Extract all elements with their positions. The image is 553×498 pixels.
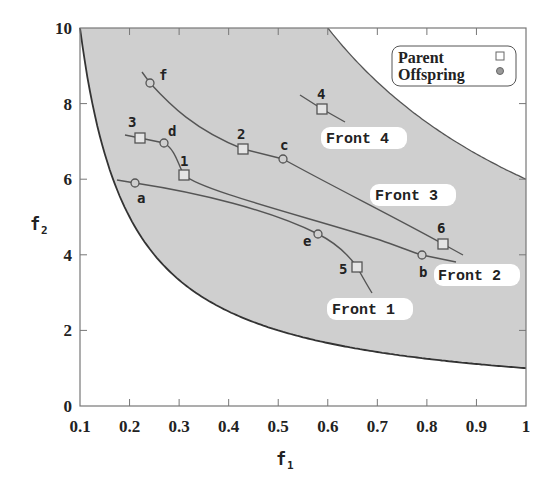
legend-square-icon [496,52,504,60]
x-tick-label: 0.8 [416,417,437,436]
x-tick-label: 0.6 [317,417,338,436]
y-tick-label: 4 [64,246,73,265]
svg-text:Front 1: Front 1 [332,302,395,319]
parent-marker-5 [352,262,362,272]
point-label-1: 1 [180,153,188,169]
y-axis-label: f 2 [30,214,48,237]
x-tick-label: 0.9 [466,417,487,436]
front-2-label: Front 2 [434,264,520,286]
x-tick-labels: 0.10.20.30.40.50.60.70.80.91 [69,417,530,436]
front-1-label: Front 1 [327,298,413,320]
y-tick-label: 2 [64,321,73,340]
svg-text:2: 2 [41,224,48,237]
offspring-marker-a [131,179,139,187]
y-tick-label: 8 [64,95,73,114]
parent-marker-4 [317,104,327,114]
legend-circle-icon [497,68,504,75]
point-label-6: 6 [437,220,445,236]
x-tick-label: 0.4 [218,417,240,436]
pareto-front-chart: 1 2 3 4 5 6 a b c d e f Front 1 Front 2 … [0,0,553,498]
x-tick-label: 0.2 [119,417,140,436]
point-label-c: c [280,137,288,153]
offspring-marker-c [279,155,287,163]
offspring-marker-e [314,230,322,238]
point-label-d: d [168,123,176,139]
parent-marker-3 [135,133,145,143]
legend-parent-label: Parent [398,49,445,66]
point-label-5: 5 [339,261,347,277]
y-tick-label: 0 [64,397,73,416]
svg-text:Front 4: Front 4 [326,131,389,148]
x-tick-label: 0.5 [268,417,289,436]
x-tick-label: 0.1 [69,417,90,436]
point-label-2: 2 [237,126,245,142]
svg-text:Front 2: Front 2 [438,268,501,285]
svg-text:1: 1 [287,459,294,472]
offspring-marker-f [146,79,154,87]
point-label-b: b [419,264,427,280]
front-4-label: Front 4 [321,127,407,149]
point-label-e: e [303,233,311,249]
y-tick-labels: 0246810 [55,19,73,416]
parent-marker-6 [438,239,448,249]
parent-marker-2 [238,144,248,154]
svg-text:f: f [30,214,40,234]
x-tick-label: 0.3 [168,417,189,436]
point-label-4: 4 [317,86,325,102]
x-tick-label: 1 [522,417,531,436]
point-label-f: f [159,67,167,83]
x-axis-label: f 1 [276,449,294,472]
legend: Parent Offspring [392,46,516,86]
svg-text:f: f [276,449,286,469]
offspring-marker-b [418,251,426,259]
legend-offspring-label: Offspring [398,66,465,84]
y-tick-label: 10 [55,19,72,38]
x-tick-label: 0.7 [367,417,389,436]
offspring-marker-d [160,139,168,147]
svg-text:Front 3: Front 3 [375,188,438,205]
point-label-3: 3 [128,114,136,130]
front-3-label: Front 3 [370,184,456,206]
point-label-a: a [137,190,145,206]
y-tick-label: 6 [64,170,73,189]
parent-marker-1 [179,170,189,180]
